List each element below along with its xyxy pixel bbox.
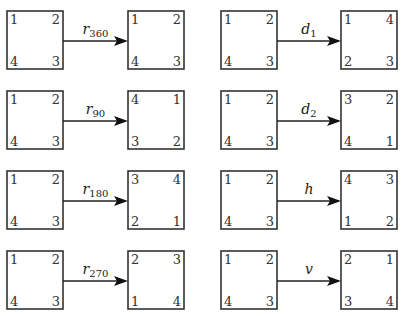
source-corner-top-right: 2 (52, 12, 60, 27)
transformation-r270: 12432314r270 (7, 251, 184, 309)
source-corner-bottom-right: 3 (266, 54, 274, 69)
label-subscript: 2 (310, 108, 316, 119)
result-corner-bottom-left: 4 (344, 134, 352, 149)
label-subscript: 360 (89, 28, 108, 39)
source-corner-top-right: 2 (52, 252, 60, 267)
result-corner-bottom-right: 2 (386, 214, 394, 229)
result-corner-top-left: 2 (344, 252, 352, 267)
transformation-r360: 12431243r360 (7, 11, 184, 69)
result-corner-top-right: 2 (386, 92, 394, 107)
result-corner-bottom-left: 3 (344, 294, 352, 309)
result-corner-bottom-right: 1 (173, 214, 181, 229)
source-corner-bottom-right: 3 (52, 214, 60, 229)
source-corner-bottom-left: 4 (224, 294, 232, 309)
result-corner-top-right: 2 (173, 12, 181, 27)
transformation-label: r180 (83, 181, 109, 199)
source-corner-bottom-left: 4 (224, 134, 232, 149)
source-corner-top-right: 2 (52, 92, 60, 107)
label-name: h (304, 181, 313, 197)
result-corner-top-left: 4 (344, 172, 352, 187)
result-corner-bottom-right: 4 (173, 294, 181, 309)
result-corner-bottom-right: 4 (386, 294, 394, 309)
source-corner-bottom-left: 4 (10, 294, 18, 309)
transformation-label: v (305, 261, 313, 277)
result-corner-bottom-left: 2 (344, 54, 352, 69)
result-corner-bottom-left: 3 (131, 134, 139, 149)
transformation-label: d1 (301, 21, 316, 39)
transformation-r180: 12433421r180 (7, 171, 184, 229)
transformation-label: r360 (83, 21, 109, 39)
result-corner-bottom-right: 3 (386, 54, 394, 69)
result-corner-top-left: 3 (344, 92, 352, 107)
label-subscript: 180 (89, 188, 108, 199)
result-corner-top-left: 1 (131, 12, 139, 27)
transformation-label: r90 (86, 101, 105, 119)
result-corner-top-left: 3 (131, 172, 139, 187)
result-corner-bottom-right: 2 (173, 134, 181, 149)
transformation-d1: 12431423d1 (221, 11, 397, 69)
result-corner-bottom-left: 1 (344, 214, 352, 229)
source-corner-top-left: 1 (10, 172, 18, 187)
result-corner-top-right: 3 (386, 172, 394, 187)
result-corner-top-right: 4 (173, 172, 181, 187)
result-corner-bottom-left: 1 (131, 294, 139, 309)
source-corner-top-left: 1 (224, 12, 232, 27)
source-corner-bottom-left: 4 (10, 54, 18, 69)
square-symmetry-diagram: 12431243r36012434132r9012433421r18012432… (0, 0, 405, 316)
source-corner-bottom-right: 3 (52, 134, 60, 149)
result-corner-top-left: 1 (344, 12, 352, 27)
result-corner-top-right: 1 (173, 92, 181, 107)
result-corner-bottom-left: 4 (131, 54, 139, 69)
source-corner-top-left: 1 (10, 12, 18, 27)
source-corner-top-right: 2 (52, 172, 60, 187)
result-corner-top-left: 4 (131, 92, 139, 107)
source-corner-bottom-right: 3 (266, 214, 274, 229)
source-corner-bottom-left: 4 (224, 54, 232, 69)
result-corner-bottom-left: 2 (131, 214, 139, 229)
result-corner-top-left: 2 (131, 252, 139, 267)
source-corner-bottom-left: 4 (10, 214, 18, 229)
source-corner-top-left: 1 (10, 252, 18, 267)
source-corner-top-left: 1 (224, 172, 232, 187)
source-corner-top-left: 1 (10, 92, 18, 107)
result-corner-bottom-right: 1 (386, 134, 394, 149)
source-corner-bottom-left: 4 (10, 134, 18, 149)
source-corner-top-right: 2 (266, 92, 274, 107)
label-subscript: 1 (310, 28, 316, 39)
label-subscript: 270 (89, 268, 108, 279)
result-corner-top-right: 1 (386, 252, 394, 267)
transformation-r90: 12434132r90 (7, 91, 184, 149)
source-corner-bottom-right: 3 (266, 294, 274, 309)
label-subscript: 90 (92, 108, 105, 119)
transformation-label: r270 (83, 261, 109, 279)
source-corner-bottom-left: 4 (224, 214, 232, 229)
transformation-h: 12434312h (221, 171, 397, 229)
transformation-label: h (304, 181, 313, 197)
label-name: d (301, 101, 310, 117)
source-corner-bottom-right: 3 (52, 294, 60, 309)
source-corner-top-right: 2 (266, 252, 274, 267)
result-corner-top-right: 3 (173, 252, 181, 267)
transformation-d2: 12433241d2 (221, 91, 397, 149)
source-corner-top-right: 2 (266, 12, 274, 27)
source-corner-top-right: 2 (266, 172, 274, 187)
result-corner-bottom-right: 3 (173, 54, 181, 69)
source-corner-bottom-right: 3 (266, 134, 274, 149)
source-corner-bottom-right: 3 (52, 54, 60, 69)
transformation-label: d2 (301, 101, 316, 119)
label-name: v (305, 261, 313, 277)
result-corner-top-right: 4 (386, 12, 394, 27)
label-name: d (301, 21, 310, 37)
source-corner-top-left: 1 (224, 92, 232, 107)
source-corner-top-left: 1 (224, 252, 232, 267)
transformation-v: 12432134v (221, 251, 397, 309)
